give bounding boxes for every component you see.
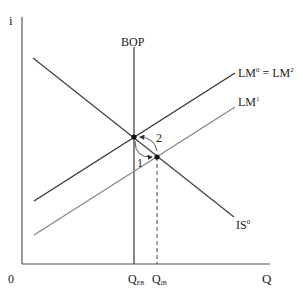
- lm1-label: LM1: [238, 95, 260, 109]
- lm0-label: LM0 = LM2: [238, 66, 294, 80]
- qib-label: QIB: [152, 272, 167, 286]
- equilibrium-point-1: [154, 154, 159, 159]
- is-label: IS0: [236, 218, 251, 232]
- qeb-label: QEB: [128, 272, 144, 286]
- origin-label: 0: [8, 272, 14, 286]
- arrow-2-label: 2: [156, 131, 162, 145]
- is-lm-bop-diagram: i Q 0 BOP LM0 = LM2 LM1 IS0 QEB QIB 1 2: [0, 0, 303, 302]
- arrow-1: [135, 141, 152, 157]
- bop-label: BOP: [121, 35, 145, 49]
- equilibrium-point-0: [131, 134, 136, 139]
- x-axis-label: Q: [262, 271, 272, 286]
- y-axis-label: i: [9, 13, 13, 28]
- arrow-1-label: 1: [137, 156, 143, 170]
